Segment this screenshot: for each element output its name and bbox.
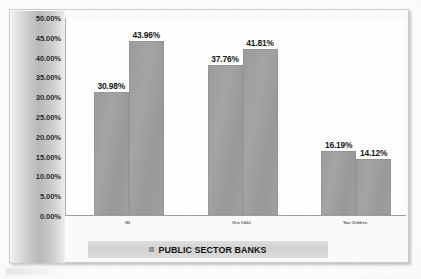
chart-legend: PUBLIC SECTOR BANKS bbox=[88, 241, 328, 258]
bar bbox=[321, 151, 356, 215]
bar bbox=[94, 92, 129, 215]
bar-value-label: 14.12% bbox=[358, 148, 390, 158]
y-axis-tick-label: 50.00% bbox=[36, 14, 61, 23]
y-axis-tick-label: 10.00% bbox=[36, 172, 61, 181]
y-axis-tick-label: 5.00% bbox=[40, 192, 61, 201]
bar bbox=[356, 159, 391, 215]
y-axis-tick-label: 20.00% bbox=[36, 133, 61, 142]
y-axis-tick-label: 30.00% bbox=[36, 93, 61, 102]
bar-value-label: 41.81% bbox=[244, 38, 276, 48]
y-axis-tick-label: 25.00% bbox=[36, 113, 61, 122]
bar-value-label: 16.19% bbox=[323, 140, 355, 150]
y-axis-tick-label: 40.00% bbox=[36, 54, 61, 63]
y-axis-tick-label: 15.00% bbox=[36, 153, 61, 162]
y-axis-tick-label: 45.00% bbox=[36, 34, 61, 43]
category-axis-label: One Child bbox=[187, 220, 297, 225]
bar-value-label: 37.76% bbox=[209, 54, 241, 64]
category-axis-label: Two Children bbox=[300, 220, 410, 225]
bar bbox=[243, 49, 278, 215]
scan-smudge bbox=[6, 268, 68, 275]
chart-frame: 50.00%45.00%40.00%35.00%30.00%25.00%20.0… bbox=[9, 9, 409, 263]
y-axis-tick-label: 35.00% bbox=[36, 73, 61, 82]
legend-swatch-icon bbox=[149, 247, 154, 252]
bar-value-label: 30.98% bbox=[95, 81, 127, 91]
legend-label: PUBLIC SECTOR BANKS bbox=[158, 245, 266, 255]
bar bbox=[129, 41, 164, 215]
y-axis: 50.00%45.00%40.00%35.00%30.00%25.00%20.0… bbox=[11, 11, 65, 263]
y-axis-tick-label: 0.00% bbox=[40, 212, 61, 221]
plot-area: 30.98%43.96%37.76%41.81%16.19%14.12% bbox=[65, 18, 406, 216]
bar-value-label: 43.96% bbox=[130, 30, 162, 40]
category-axis: NilOne ChildTwo Children bbox=[65, 218, 406, 232]
category-axis-label: Nil bbox=[73, 220, 183, 225]
bar bbox=[208, 65, 243, 215]
